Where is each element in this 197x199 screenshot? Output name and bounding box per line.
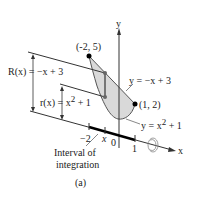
- tick-label-1: 1: [132, 143, 137, 154]
- lower-curve-label: y = x2 + 1: [141, 117, 182, 131]
- shaded-region: [89, 56, 135, 119]
- arrow-up-icon: [60, 86, 64, 91]
- inner-radius-label: r(x) = x2 + 1: [40, 94, 91, 109]
- solid-of-revolution-diagram: y x (-2, 5) (1, 2) y = −x + 3 y = x2 + 1…: [0, 0, 197, 199]
- tick-label-x: x: [101, 133, 107, 144]
- point-label-1-2: (1, 2): [139, 99, 161, 111]
- upper-curve-label: y = −x + 3: [129, 75, 171, 86]
- outer-radius-label: R(x) = −x + 3: [8, 66, 63, 78]
- outer-point: [103, 71, 107, 75]
- caption: (a): [75, 177, 86, 189]
- point-1-2: [133, 102, 138, 107]
- arrow-up-icon: [31, 54, 35, 59]
- interval-label-line1: Interval of: [54, 147, 97, 158]
- x-axis-label: x: [178, 145, 183, 156]
- y-axis-arrow-icon: [117, 28, 121, 35]
- x-axis-arrow-icon: [168, 147, 176, 152]
- inner-point: [103, 95, 107, 99]
- point-neg2-5: [87, 54, 92, 59]
- tick-label-neg2: −2: [80, 133, 91, 144]
- leader-lower-curve: [126, 119, 140, 124]
- tick-label-0: 0: [111, 137, 116, 148]
- point-label-neg2-5: (-2, 5): [76, 41, 101, 53]
- interval-label-line2: integration: [56, 159, 99, 170]
- y-axis-label: y: [116, 18, 121, 29]
